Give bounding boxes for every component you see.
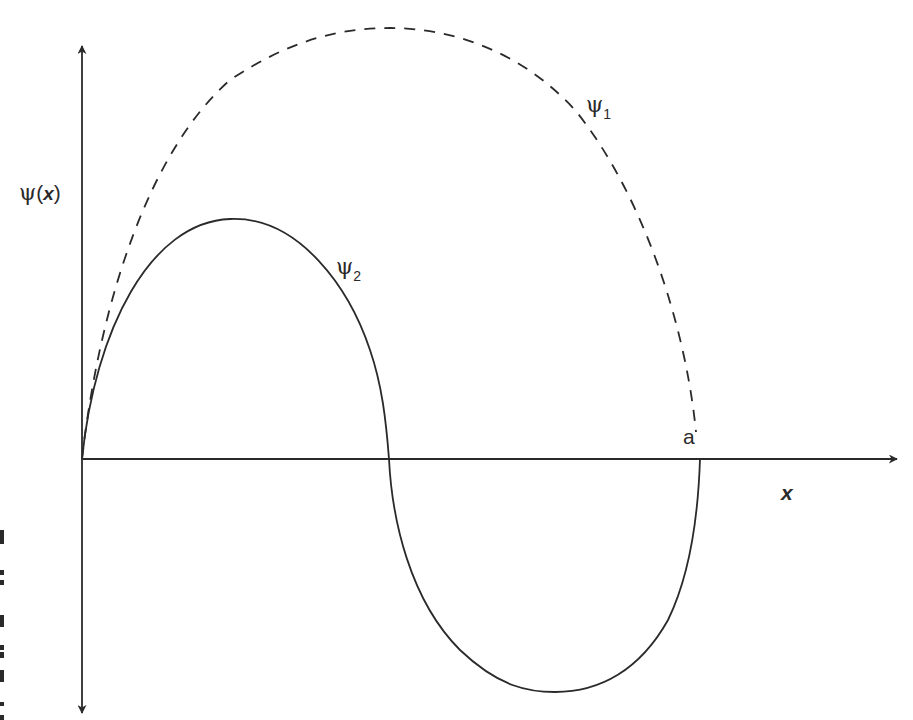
paren-close: ) [54, 181, 61, 204]
variable-x: x [43, 183, 54, 204]
psi2-subscript: 2 [353, 268, 361, 284]
psi2-label: ψ2 [336, 254, 361, 284]
psi1-symbol: ψ [586, 92, 603, 117]
psi1-label: ψ1 [586, 92, 611, 122]
cropped-side-caption [0, 530, 9, 720]
psi2-curve [82, 219, 700, 692]
y-axis-label: ψ(x) [19, 180, 61, 205]
psi2-symbol: ψ [336, 254, 353, 279]
psi1-subscript: 1 [603, 106, 611, 122]
psi-symbol: ψ [19, 180, 36, 205]
boundary-a-label: a [683, 425, 695, 449]
x-axis-label: x [781, 481, 793, 505]
